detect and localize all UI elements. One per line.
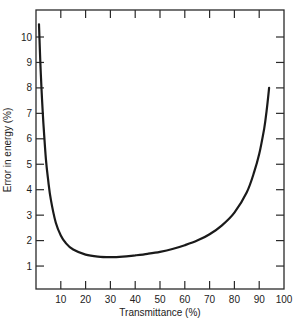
x-tick-label: 70 xyxy=(204,294,216,305)
x-tick-label: 90 xyxy=(254,294,266,305)
y-tick-label: 1 xyxy=(26,261,32,272)
y-tick-label: 7 xyxy=(26,108,32,119)
y-tick-label: 5 xyxy=(26,159,32,170)
x-tick-label: 20 xyxy=(80,294,92,305)
x-axis-label: Transmittance (%) xyxy=(119,307,200,318)
chart-canvas: 102030405060708090100 12345678910 Transm… xyxy=(0,0,299,322)
x-axis-tick-labels: 102030405060708090100 xyxy=(55,294,293,305)
x-tick-label: 100 xyxy=(276,294,293,305)
y-tick-label: 9 xyxy=(26,57,32,68)
error-curve xyxy=(39,24,269,257)
y-tick-label: 8 xyxy=(26,82,32,93)
x-tick-label: 60 xyxy=(179,294,191,305)
y-axis-ticks xyxy=(36,37,284,266)
y-tick-label: 10 xyxy=(21,32,33,43)
y-axis-label: Error in energy (%) xyxy=(2,108,13,192)
x-tick-label: 30 xyxy=(105,294,117,305)
plot-frame xyxy=(36,10,284,289)
x-tick-label: 50 xyxy=(154,294,166,305)
x-tick-label: 10 xyxy=(55,294,67,305)
x-tick-label: 80 xyxy=(229,294,241,305)
x-tick-label: 40 xyxy=(130,294,142,305)
y-tick-label: 2 xyxy=(26,235,32,246)
y-axis-tick-labels: 12345678910 xyxy=(21,32,33,272)
y-tick-label: 4 xyxy=(26,184,32,195)
x-axis-ticks xyxy=(61,10,259,289)
y-tick-label: 6 xyxy=(26,133,32,144)
y-tick-label: 3 xyxy=(26,210,32,221)
